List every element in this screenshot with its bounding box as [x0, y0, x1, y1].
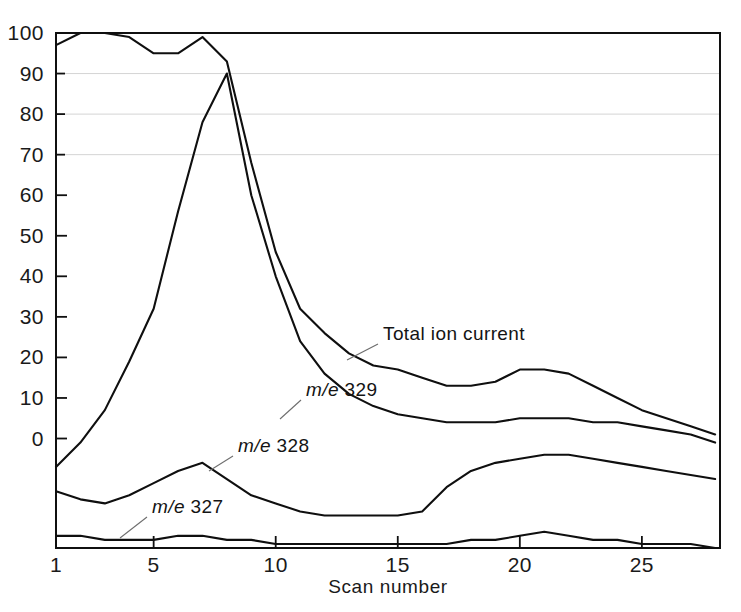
series-line-total-ion-current [56, 33, 715, 434]
x-tick-label: 1 [50, 553, 62, 576]
plot-frame [56, 33, 720, 548]
x-tick-label: 15 [386, 553, 410, 576]
y-tick-label: 50 [20, 224, 44, 247]
annotation-me-329: m/e 329 [306, 379, 377, 400]
y-tick-label: 80 [20, 102, 44, 125]
y-axis-tick-labels: 0102030405060708090100 [7, 21, 44, 450]
axis-frame [56, 33, 720, 548]
y-tick-label: 60 [20, 183, 44, 206]
annotation-value: 327 [191, 496, 224, 517]
leader-line-me-327 [120, 517, 147, 538]
annotation-prefix: m/e [238, 435, 277, 456]
y-tick-label: 30 [20, 305, 44, 328]
annotation-prefix: m/e [152, 496, 191, 517]
annotation-value: 329 [345, 379, 378, 400]
annotation-total-ion-current: Total ion current [383, 323, 525, 344]
scan-number-line-chart: 0102030405060708090100 1510152025 Scan n… [0, 0, 741, 612]
y-tick-label: 100 [7, 21, 44, 44]
x-tick-label: 20 [508, 553, 532, 576]
data-series-curves [56, 33, 715, 548]
gridlines [56, 33, 720, 155]
x-axis-title: Scan number [328, 576, 448, 597]
annotation-me-328: m/e 328 [238, 435, 309, 456]
leader-line-me-329 [280, 400, 301, 419]
y-tick-label: 0 [32, 427, 44, 450]
leader-line-total-ion-current [347, 344, 378, 360]
x-tick-label: 10 [264, 553, 288, 576]
chart-figure: 0102030405060708090100 1510152025 Scan n… [0, 0, 741, 612]
x-tick-label: 25 [630, 553, 654, 576]
y-tick-label: 20 [20, 345, 44, 368]
x-tick-label: 5 [148, 553, 160, 576]
annotation-me-327: m/e 327 [152, 496, 223, 517]
series-line-m-e-329 [56, 74, 715, 467]
y-tick-label: 40 [20, 264, 44, 287]
y-tick-label: 90 [20, 62, 44, 85]
y-tick-label: 10 [20, 386, 44, 409]
axis-ticks [56, 74, 642, 548]
y-tick-label: 70 [20, 143, 44, 166]
annotation-value: 328 [277, 435, 310, 456]
leader-line-me-328 [209, 456, 233, 471]
x-axis-tick-labels: 1510152025 [50, 553, 654, 576]
annotation-prefix: m/e [306, 379, 345, 400]
series-annotations: Total ion currentm/e 329m/e 328m/e 327 [152, 323, 525, 517]
series-line-m-e-327 [56, 532, 715, 548]
